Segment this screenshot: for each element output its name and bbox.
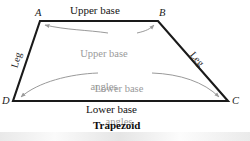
trapezoid-figure: A B C D Upper base Lower base Leg Leg Up… [0,0,250,141]
vertex-label-b: B [159,8,165,19]
scan-artifact [0,132,250,141]
vertex-label-c: C [232,96,239,107]
upper-base-angles-line-1: Upper base [63,49,145,60]
upper-base-label: Upper base [70,5,120,16]
vertex-label-a: A [35,8,41,19]
figure-caption: Trapezoid [93,120,140,131]
lower-base-angles-line-1: Lower base [78,84,160,95]
lower-angle-arrow-right [152,73,219,97]
vertex-label-d: D [2,96,10,107]
